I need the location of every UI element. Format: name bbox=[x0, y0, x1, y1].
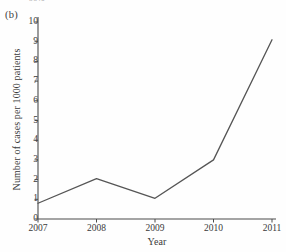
series-line bbox=[38, 40, 272, 204]
data-series bbox=[38, 40, 272, 204]
plot-area bbox=[0, 0, 286, 252]
line-chart: Number of cases per 1000 patients 012345… bbox=[0, 0, 286, 252]
axes bbox=[35, 17, 277, 223]
